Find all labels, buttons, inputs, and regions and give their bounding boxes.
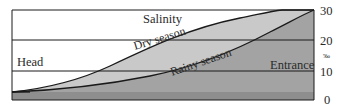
entrance-label: Entrance (270, 58, 315, 72)
ytick-20: 20 (320, 34, 333, 48)
ytick-10: 10 (320, 65, 333, 79)
salinity-chart: Salinity Dry season Rainy season Head En… (0, 0, 343, 110)
ytick-30: 30 (320, 4, 333, 18)
head-label: Head (17, 55, 44, 69)
base-band (12, 92, 314, 100)
salinity-label: Salinity (143, 12, 183, 26)
unit-label: ‰ (323, 52, 330, 60)
ytick-0: 0 (324, 93, 330, 107)
